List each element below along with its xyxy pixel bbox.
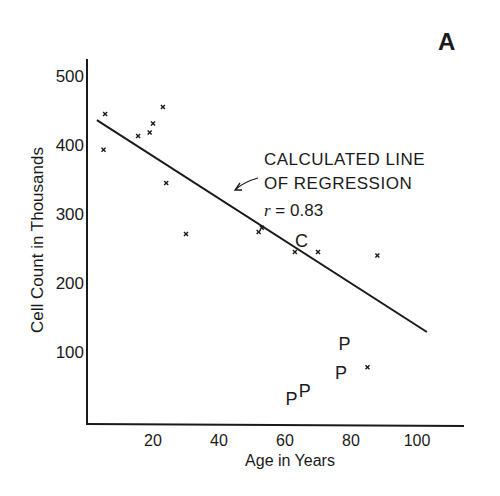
x-marker-icon: [103, 112, 107, 116]
r-symbol: r: [264, 201, 271, 220]
p-marker: P: [338, 334, 350, 354]
x-marker-icon: [375, 253, 379, 257]
y-tick-label: 200: [56, 274, 84, 293]
y-tick-labels: 100200300400500: [56, 67, 84, 362]
x-marker-icon: [184, 232, 188, 236]
axes: [86, 59, 464, 426]
x-tick-label: 80: [342, 432, 360, 449]
x-marker-icon: [102, 148, 106, 152]
c-marker: C: [295, 231, 308, 251]
x-marker-icon: [366, 365, 370, 369]
scatter-plot: 100200300400500 20406080100 PPPPC: [0, 0, 500, 496]
x-tick-labels: 20406080100: [144, 432, 430, 449]
p-marker: P: [286, 389, 298, 409]
x-tick-label: 100: [404, 432, 431, 449]
x-marker-icon: [164, 181, 168, 185]
x-marker-icon: [161, 105, 165, 109]
x-marker-icon: [136, 134, 140, 138]
annotation-r-value: r = 0.83: [264, 201, 323, 221]
panel-label: A: [438, 28, 455, 56]
x-axis-title: Age in Years: [190, 452, 390, 470]
y-axis-title: Cell Count in Thousands: [28, 120, 48, 360]
x-marker-icon: [316, 250, 320, 254]
x-marker-icon: [148, 131, 152, 135]
x-tick-label: 20: [144, 432, 162, 449]
x-tick-label: 60: [276, 432, 294, 449]
annotation-line1: CALCULATED LINE: [264, 150, 425, 170]
y-tick-label: 400: [56, 136, 84, 155]
x-tick-label: 40: [210, 432, 228, 449]
x-marker-icon: [257, 230, 261, 234]
r-value: = 0.83: [275, 201, 323, 220]
p-marker: P: [335, 363, 347, 383]
y-tick-label: 300: [56, 205, 84, 224]
y-tick-label: 100: [56, 343, 84, 362]
annotation-line2: OF REGRESSION: [264, 174, 412, 194]
x-axis: [86, 424, 464, 426]
p-marker: P: [299, 381, 311, 401]
y-tick-label: 500: [56, 67, 84, 86]
x-marker-icon: [151, 122, 155, 126]
